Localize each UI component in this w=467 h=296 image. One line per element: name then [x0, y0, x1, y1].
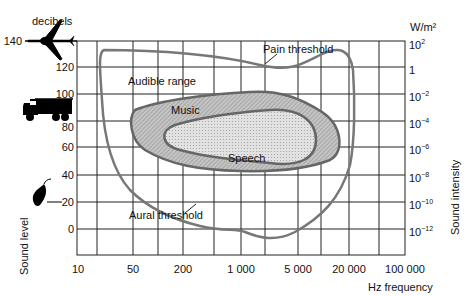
x-tick: 200 [174, 263, 192, 275]
x-tick: 1 000 [227, 263, 255, 275]
x-tick: 20 000 [332, 263, 366, 275]
y-right-tick: 10−8 [409, 169, 429, 184]
x-tick: 5 000 [284, 263, 312, 275]
x-tick: 10 [72, 263, 84, 275]
y-right-tick: 102 [409, 36, 425, 51]
y-left-title: Sound level [18, 218, 30, 276]
y-tick: 140 [0, 35, 22, 47]
y-right-tick: 10−2 [409, 88, 429, 103]
y-right-tick: 1 [409, 61, 415, 76]
audible-range-label: Audible range [128, 75, 196, 87]
y-right-unit: W/m² [410, 21, 436, 33]
y-right-tick: 10−4 [409, 115, 429, 130]
y-right-tick: 10−6 [409, 141, 429, 156]
y-tick: 120 [44, 61, 74, 73]
y-tick: 100 [44, 88, 74, 100]
x-tick: 100 000 [385, 263, 425, 275]
y-tick: 20 [44, 196, 74, 208]
y-right-tick: 10−10 [409, 196, 433, 211]
y-left-unit: decibels [32, 15, 72, 27]
x-tick: 50 [127, 263, 139, 275]
x-title: Hz frequency [368, 281, 433, 293]
y-right-title: Sound intensity [449, 160, 461, 235]
truck-icon [23, 99, 73, 121]
aural-threshold-label: Aural threshold [129, 209, 203, 221]
y-tick: 0 [44, 223, 74, 235]
y-tick: 60 [44, 141, 74, 153]
pain-threshold-label: Pain threshold [263, 43, 333, 55]
y-tick: 40 [44, 169, 74, 181]
y-tick: 80 [44, 121, 74, 133]
speech-label: Speech [228, 152, 265, 164]
music-label: Music [171, 104, 200, 116]
y-right-tick: 10−12 [409, 223, 433, 238]
